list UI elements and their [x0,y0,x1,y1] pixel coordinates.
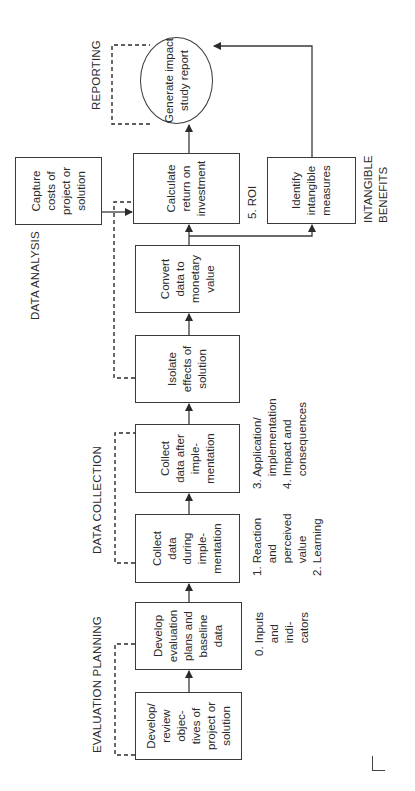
box-develop-evaluation-plans: Develop evaluation plans and baseline da… [135,602,242,670]
phase-label-data-collection: DATA COLLECTION [91,446,103,554]
level-label-3-4: 3. Application/ implementation 4. Impact… [250,398,310,489]
page-corner-mark [372,756,385,771]
phase-label-data-analysis: DATA ANALYSIS [29,231,41,320]
bracket-data-collection [115,433,135,563]
box-develop-objectives: Develop/ review objec- tives of project … [135,692,242,760]
box-calculate-roi: Calculate return on investment [133,153,240,224]
level-label-5: 5. ROI [245,186,260,219]
arrow-intangible-to-report [214,46,312,157]
phase-label-intangible-benefits: INTANGIBLE BENEFITS [361,155,391,223]
level-label-1-2: 1. Reaction and perceived value 2. Learn… [250,513,325,576]
box-collect-data-during: Collect data during imple- mentation [135,514,240,583]
ellipse-generate-report: Generate impact study report [140,37,213,124]
box-identify-intangible: Identify intangible measures [267,157,356,224]
roi-methodology-diagram: EVALUATION PLANNING DATA COLLECTION DATA… [0,0,415,791]
bracket-data-analysis [114,202,135,378]
box-convert-data: Convert data to monetary value [135,245,240,313]
phase-label-reporting: REPORTING [90,40,102,110]
level-label-0: 0. Inputs and indi- cators [252,612,312,656]
arrow-convert-to-intangible [189,225,312,236]
box-isolate-effects: Isolate effects of solution [135,335,240,403]
box-collect-data-after: Collect data after imple- mentation [135,424,240,493]
phase-label-evaluation-planning: EVALUATION PLANNING [91,616,103,753]
box-capture-costs: Capture costs of project or solution [15,157,102,225]
bracket-evaluation-planning [115,644,135,755]
